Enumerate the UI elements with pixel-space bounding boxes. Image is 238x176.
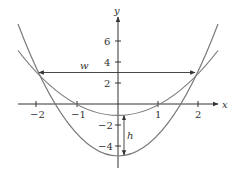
height-label: h — [127, 130, 133, 141]
y-tick-label: 4 — [104, 57, 110, 68]
y-tick-label: 6 — [104, 36, 110, 47]
x-tick-label: −1 — [71, 109, 86, 120]
x-tick-label: −2 — [30, 109, 45, 120]
function-plot: x y −2 −1 1 2 6 4 2 −2 −4 w h — [0, 0, 238, 176]
y-tick-label: −2 — [98, 120, 113, 131]
x-tick-label: 1 — [155, 109, 161, 120]
width-label: w — [80, 60, 89, 71]
y-axis-label: y — [113, 5, 120, 16]
x-tick-label: 2 — [195, 109, 201, 120]
x-axis-label: x — [222, 99, 228, 110]
y-tick-label: 2 — [104, 78, 110, 89]
y-tick-label: −4 — [98, 141, 113, 152]
